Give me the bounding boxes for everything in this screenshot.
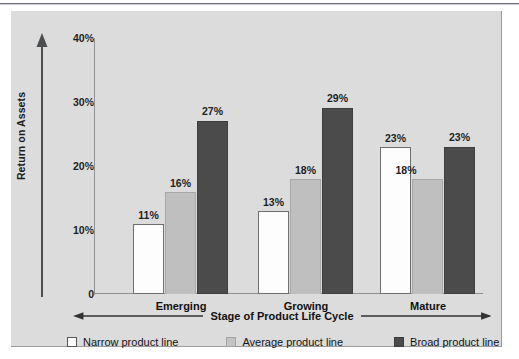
y-tick-30 [87,102,94,103]
bar-group-emerging: 11% 16% 27% Emerging [133,38,229,294]
bar-value-label: 23% [385,132,406,144]
x-axis-arrow-left-icon [73,311,203,321]
legend: Narrow product line Average product line… [63,333,483,351]
legend-item-broad[interactable]: Broad product line [394,336,499,348]
legend-item-average[interactable]: Average product line [226,336,343,348]
bar-value-label: 13% [263,196,284,208]
legend-swatch-narrow-icon [67,337,77,347]
bar-value-label: 18% [295,164,316,176]
chart-screenshot: Return on Assets 40% 30% 20% 10% 0 11% [0,0,519,359]
y-axis-line [94,38,95,295]
legend-label-narrow: Narrow product line [83,336,178,348]
bar-value-label: 29% [327,92,348,104]
bar-mature-average[interactable]: 18% [412,179,443,294]
bar-growing-average[interactable]: 18% [290,179,321,294]
plot-area: 11% 16% 27% Emerging 13% 18% 2 [94,38,483,294]
bar-emerging-average[interactable]: 16% [165,192,196,294]
y-tick-40 [87,38,94,39]
y-tick-label-0: 0 [52,288,94,300]
x-axis-title-row: Stage of Product Life Cycle [73,308,491,324]
legend-swatch-broad-icon [394,337,404,347]
bar-value-label: 23% [449,131,470,143]
y-tick-10 [87,230,94,231]
bar-value-label: 18% [395,164,416,176]
y-tick-20 [87,166,94,167]
y-axis-arrow-icon [34,33,50,297]
page-top-rule-shadow [0,4,519,5]
bar-value-label: 11% [138,209,158,221]
bar-mature-broad[interactable]: 23% [444,147,475,294]
legend-label-average: Average product line [242,336,343,348]
bar-group-mature: 23% 18% 23% Mature [380,38,476,294]
bar-growing-broad[interactable]: 29% [322,108,353,294]
bar-emerging-narrow[interactable]: 11% [133,224,164,294]
y-axis-title: Return on Assets [14,71,28,201]
x-axis-arrow-right-icon [361,311,491,321]
bar-emerging-broad[interactable]: 27% [197,121,228,294]
bar-value-label: 16% [170,177,191,189]
bar-value-label: 27% [202,105,223,117]
bar-group-growing: 13% 18% 29% Growing [258,38,354,294]
bar-growing-narrow[interactable]: 13% [258,211,289,294]
legend-label-broad: Broad product line [410,336,499,348]
chart-panel: Return on Assets 40% 30% 20% 10% 0 11% [11,11,502,347]
legend-item-narrow[interactable]: Narrow product line [67,336,178,348]
x-axis-title: Stage of Product Life Cycle [203,310,360,322]
legend-swatch-average-icon [226,337,236,347]
